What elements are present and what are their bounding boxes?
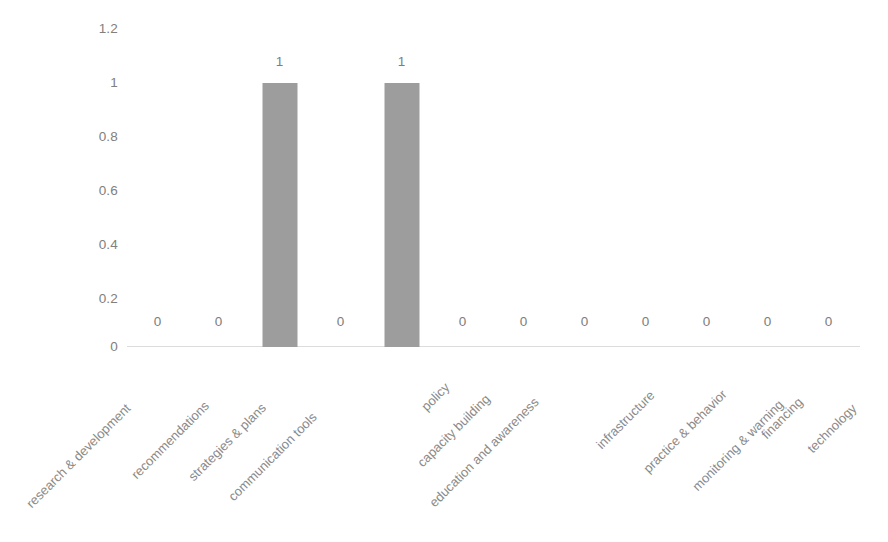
x-tick-label-education-and-awareness: education and awareness: [427, 395, 541, 509]
x-tick-label-policy: policy: [419, 380, 452, 413]
bar-chart: 1.2 1 0.8 0.6 0.4 0.2 0 0 0 1 0 1: [0, 0, 888, 542]
x-axis: research & development recommendations s…: [0, 0, 888, 542]
x-tick-label-research-development: research & development: [24, 401, 133, 510]
x-tick-label-infrastructure: infrastructure: [594, 388, 657, 451]
x-tick-label-technology: technology: [805, 402, 859, 456]
